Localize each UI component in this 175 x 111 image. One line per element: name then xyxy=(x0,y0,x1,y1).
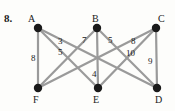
edge-weight-c-d: 9 xyxy=(148,57,153,66)
edge-weight-a-d: 5 xyxy=(58,48,63,57)
edge-weight-c-e: 8 xyxy=(131,37,136,46)
vertex-b xyxy=(93,24,101,32)
edges-group xyxy=(38,28,157,88)
vertex-label-a: A xyxy=(28,14,35,24)
vertex-f xyxy=(34,84,42,92)
edge-weight-c-f: 10 xyxy=(126,49,135,58)
edge-weight-a-f: 8 xyxy=(31,54,36,63)
vertex-label-c: C xyxy=(158,14,165,24)
edge-c-d xyxy=(156,28,157,88)
edge-weight-a-e: 3 xyxy=(58,37,63,46)
edge-weight-b-e: 4 xyxy=(92,70,97,79)
vertex-label-b: B xyxy=(92,14,99,24)
figure-container: 8. ABCFED 8357451089 xyxy=(0,0,175,111)
vertex-c xyxy=(152,24,160,32)
vertex-a xyxy=(34,24,42,32)
vertex-label-f: F xyxy=(33,95,39,105)
vertex-e xyxy=(94,84,102,92)
edge-weight-b-d: 5 xyxy=(108,36,113,45)
vertex-label-d: D xyxy=(155,95,162,105)
vertex-label-e: E xyxy=(93,95,99,105)
edge-weight-b-f: 7 xyxy=(82,36,87,45)
vertex-d xyxy=(153,84,161,92)
